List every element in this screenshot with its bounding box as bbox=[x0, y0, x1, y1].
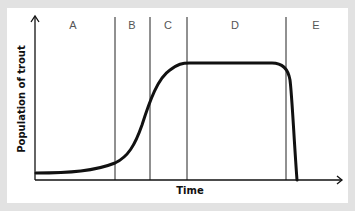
trout-population-chart: A B C D E Time Population of trout bbox=[0, 0, 355, 211]
x-axis-label: Time bbox=[176, 185, 204, 196]
phase-label-d: D bbox=[231, 19, 239, 31]
population-curve bbox=[36, 63, 297, 180]
phase-label-c: C bbox=[164, 19, 172, 31]
y-axis-label: Population of trout bbox=[16, 45, 27, 153]
phase-label-a: A bbox=[69, 19, 77, 31]
phase-label-e: E bbox=[312, 19, 319, 31]
phase-label-b: B bbox=[128, 19, 135, 31]
phase-dividers bbox=[115, 17, 286, 180]
